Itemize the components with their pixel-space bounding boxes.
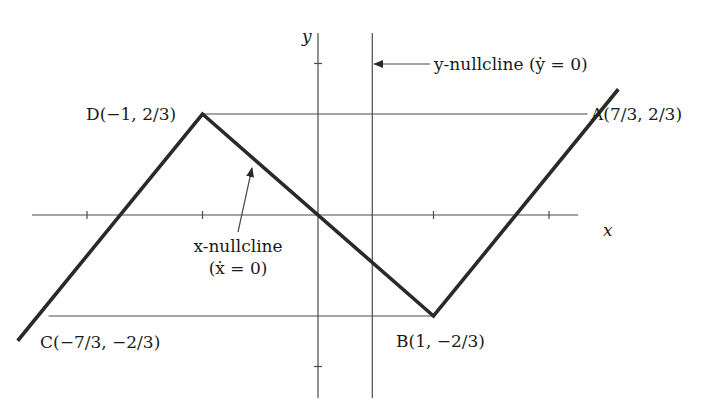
x-nullcline-label: x-nullcline [193,236,282,256]
point-label-c: C(−7/3, −2/3) [40,332,160,352]
y-axis-label: y [301,26,312,46]
point-label-b: B(1, −2/3) [396,331,485,351]
point-label-a: A(7/3, 2/3) [590,104,682,124]
x-nullcline-arrow [238,168,252,232]
x-axis-label: x [603,220,613,240]
y-nullcline-label: y-nullcline (ẏ = 0) [433,54,588,74]
x-nullcline-equation: (ẋ = 0) [209,258,268,278]
point-label-d: D(−1, 2/3) [86,104,176,124]
phase-plane-diagram: x y y-nullcline (ẏ = 0) x-nullcline (ẋ =… [0,0,724,418]
